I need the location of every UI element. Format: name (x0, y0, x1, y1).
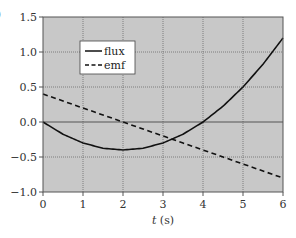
legend: fluxemf (80, 41, 135, 74)
x-tick-label: 3 (160, 198, 167, 211)
y-tick-label: −1.0 (10, 186, 37, 199)
x-tick-label: 4 (200, 198, 207, 211)
x-axis-title: t (s) (152, 214, 174, 227)
x-tick-label: 0 (40, 198, 47, 211)
y-tick-label: 0.0 (20, 116, 38, 129)
legend-label-emf: emf (104, 59, 126, 72)
x-tick-label: 2 (120, 198, 127, 211)
line-chart: 0123456−1.0−0.50.00.51.01.5 fluxemf t (s… (0, 0, 296, 238)
y-tick-label: −0.5 (10, 151, 37, 164)
x-tick-label: 5 (240, 198, 247, 211)
legend-label-flux: flux (104, 45, 125, 58)
x-tick-label: 1 (80, 198, 87, 211)
x-tick-label: 6 (280, 198, 287, 211)
y-tick-label: 0.5 (20, 81, 38, 94)
y-tick-label: 1.5 (20, 11, 38, 24)
y-tick-label: 1.0 (20, 46, 38, 59)
